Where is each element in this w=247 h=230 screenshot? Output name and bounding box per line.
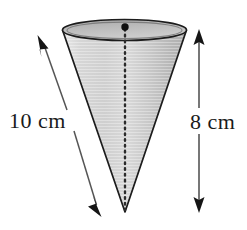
cone-figure: 10 cm 8 cm — [0, 0, 247, 230]
slant-height-label: 10 cm — [9, 110, 66, 132]
height-label: 8 cm — [188, 110, 237, 134]
cone-center-dot — [121, 23, 128, 30]
